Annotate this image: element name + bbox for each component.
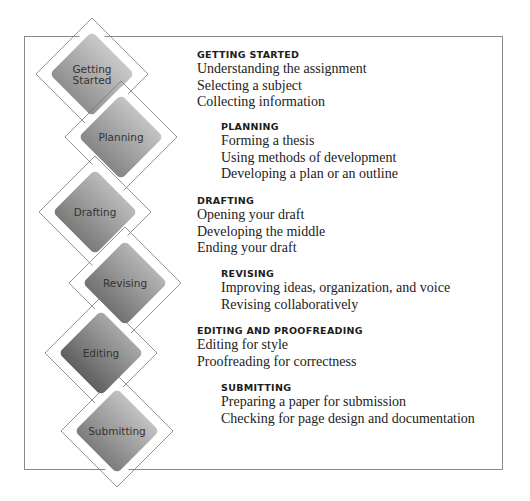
section-item: Preparing a paper for submission <box>221 394 475 411</box>
section-item: Developing a plan or an outline <box>221 166 398 183</box>
section-item: Selecting a subject <box>197 78 367 95</box>
section-heading: SUBMITTING <box>221 381 475 394</box>
diamond-label: Drafting <box>74 206 117 218</box>
stage-diamond-submitting: Submitting <box>61 375 173 487</box>
section-getting-started: GETTING STARTED Understanding the assign… <box>197 48 367 111</box>
section-item: Proofreading for correctness <box>197 354 363 371</box>
section-item: Collecting information <box>197 94 367 111</box>
section-drafting: DRAFTING Opening your draft Developing t… <box>197 194 325 257</box>
diamond-label: Revising <box>103 277 147 289</box>
section-item: Developing the middle <box>197 224 325 241</box>
section-submitting: SUBMITTING Preparing a paper for submiss… <box>221 381 475 427</box>
diamond-label: Started <box>73 74 112 86</box>
section-item: Forming a thesis <box>221 133 398 150</box>
section-heading: DRAFTING <box>197 194 325 207</box>
diamond-label: Submitting <box>88 425 146 437</box>
section-item: Understanding the assignment <box>197 61 367 78</box>
section-heading: REVISING <box>221 267 450 280</box>
section-item: Improving ideas, organization, and voice <box>221 280 450 297</box>
section-heading: PLANNING <box>221 120 398 133</box>
diamond-label: Planning <box>98 131 143 143</box>
section-editing: EDITING AND PROOFREADING Editing for sty… <box>197 324 363 370</box>
section-item: Ending your draft <box>197 240 325 257</box>
section-heading: EDITING AND PROOFREADING <box>197 324 363 337</box>
section-item: Revising collaboratively <box>221 297 450 314</box>
section-planning: PLANNING Forming a thesis Using methods … <box>221 120 398 183</box>
section-item: Opening your draft <box>197 207 325 224</box>
diamond-label: Editing <box>83 347 120 359</box>
section-revising: REVISING Improving ideas, organization, … <box>221 267 450 313</box>
section-item: Using methods of development <box>221 150 398 167</box>
section-heading: GETTING STARTED <box>197 48 367 61</box>
section-item: Editing for style <box>197 337 363 354</box>
section-item: Checking for page design and documentati… <box>221 411 475 428</box>
